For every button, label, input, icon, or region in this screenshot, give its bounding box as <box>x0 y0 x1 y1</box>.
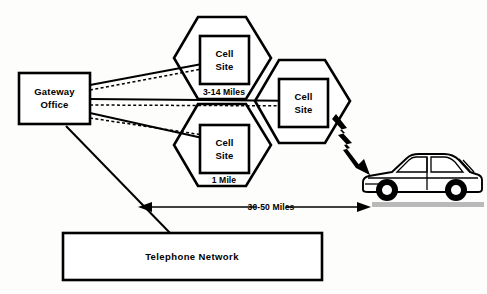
car-front-hub <box>382 185 392 195</box>
gateway-office-label-line1: Gateway <box>34 86 75 97</box>
cell-site-bottom-label-line1: Cell <box>215 137 233 148</box>
cell-radius-range-label: 3-14 Miles <box>203 87 245 97</box>
telephone-network-node[interactable]: Telephone Network <box>63 233 322 280</box>
system-span-arrowhead-right <box>357 202 371 212</box>
cell-site-bottom-label-line2: Site <box>215 150 233 161</box>
gateway-office-node[interactable]: Gateway Office <box>19 73 90 124</box>
cell-site-right-label-line1: Cell <box>294 91 312 102</box>
cell-site-right-node[interactable]: Cell Site <box>279 79 328 127</box>
cell-site-top-label-line2: Site <box>215 61 233 72</box>
lightning-bolt-head <box>356 159 370 175</box>
lightning-bolt-icon <box>332 114 370 175</box>
cell-site-bottom-node[interactable]: Cell Site <box>200 125 249 173</box>
system-span-dimension: 30-50 Miles <box>138 202 371 212</box>
cell-site-bottom-box[interactable] <box>200 125 249 173</box>
cell-site-right-box[interactable] <box>279 79 328 127</box>
cellular-architecture-diagram: Gateway Office Cell Site Cell Site Cell … <box>0 0 487 294</box>
gateway-office-label-line2: Office <box>40 99 68 110</box>
cell-site-right-label-line2: Site <box>294 104 312 115</box>
link-gateway-to-telephone-network <box>66 126 170 233</box>
cell-site-top-box[interactable] <box>200 36 249 84</box>
car-rear-hub <box>451 185 461 195</box>
cell-site-top-label-line1: Cell <box>215 48 233 59</box>
cell-radius-min-label: 1 Mile <box>212 175 237 185</box>
road-surface <box>372 202 484 207</box>
diagram-canvas: Gateway Office Cell Site Cell Site Cell … <box>0 0 487 294</box>
cell-site-top-node[interactable]: Cell Site <box>200 36 249 84</box>
telephone-network-label: Telephone Network <box>145 251 239 262</box>
system-span-label: 30-50 Miles <box>248 202 295 212</box>
car-icon <box>363 154 482 201</box>
